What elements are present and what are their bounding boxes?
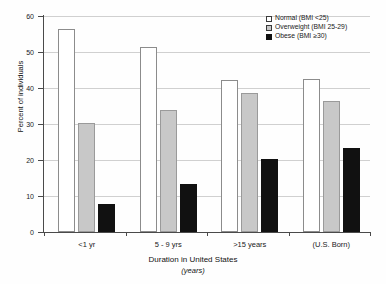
x-tick-0 bbox=[44, 232, 45, 236]
bar-overweight-2 bbox=[241, 93, 258, 232]
legend-label-obese: Obese (BMI ≥30) bbox=[275, 33, 327, 40]
legend-item-overweight: Overweight (BMI 25-29) bbox=[266, 23, 347, 32]
bar-normal-0 bbox=[58, 29, 75, 232]
bar-overweight-0 bbox=[78, 123, 95, 232]
x-tick-3 bbox=[289, 232, 290, 236]
legend-swatch-overweight bbox=[266, 25, 272, 31]
x-tick-2 bbox=[207, 232, 208, 236]
x-tick-1 bbox=[126, 232, 127, 236]
legend-swatch-normal bbox=[266, 16, 272, 22]
bar-obese-0 bbox=[98, 204, 115, 232]
y-tick-label-50: 50 bbox=[8, 49, 34, 56]
bar-obese-1 bbox=[180, 184, 197, 232]
bar-obese-3 bbox=[343, 148, 360, 232]
legend-item-obese: Obese (BMI ≥30) bbox=[266, 32, 347, 41]
x-category-label-2: >15 years bbox=[210, 240, 290, 249]
x-tick-4 bbox=[370, 232, 371, 236]
x-axis-title: Duration in United States bbox=[0, 255, 386, 264]
gridline-40 bbox=[44, 88, 370, 89]
y-tick-label-40: 40 bbox=[8, 85, 34, 92]
y-tick-30 bbox=[38, 124, 43, 125]
plot-area bbox=[44, 16, 370, 232]
legend: Normal (BMI <25)Overweight (BMI 25-29)Ob… bbox=[264, 13, 349, 42]
legend-swatch-obese bbox=[266, 34, 272, 40]
y-tick-label-20: 20 bbox=[8, 157, 34, 164]
chart-figure: Percent of individuals 0102030405060 <1 … bbox=[0, 0, 386, 284]
bar-overweight-1 bbox=[160, 110, 177, 232]
y-tick-label-30: 30 bbox=[8, 121, 34, 128]
x-axis-title-units: (years) bbox=[0, 266, 386, 275]
y-tick-0 bbox=[38, 232, 43, 233]
legend-label-overweight: Overweight (BMI 25-29) bbox=[275, 24, 347, 31]
bar-normal-3 bbox=[303, 79, 320, 232]
y-tick-10 bbox=[38, 196, 43, 197]
y-tick-label-10: 10 bbox=[8, 193, 34, 200]
bar-obese-2 bbox=[261, 159, 278, 232]
y-tick-label-0: 0 bbox=[8, 229, 34, 236]
gridline-50 bbox=[44, 52, 370, 53]
y-tick-60 bbox=[38, 16, 43, 17]
x-category-label-0: <1 yr bbox=[47, 240, 127, 249]
y-tick-40 bbox=[38, 88, 43, 89]
y-tick-20 bbox=[38, 160, 43, 161]
y-tick-label-60: 60 bbox=[8, 13, 34, 20]
y-axis-title: Percent of individuals bbox=[16, 27, 25, 167]
bar-normal-1 bbox=[140, 47, 157, 232]
x-category-label-1: 5 - 9 yrs bbox=[128, 240, 208, 249]
legend-label-normal: Normal (BMI <25) bbox=[275, 15, 329, 22]
y-tick-50 bbox=[38, 52, 43, 53]
legend-item-normal: Normal (BMI <25) bbox=[266, 14, 347, 23]
bar-normal-2 bbox=[221, 80, 238, 232]
bar-overweight-3 bbox=[323, 101, 340, 232]
x-category-label-3: (U.S. Born) bbox=[291, 240, 371, 249]
